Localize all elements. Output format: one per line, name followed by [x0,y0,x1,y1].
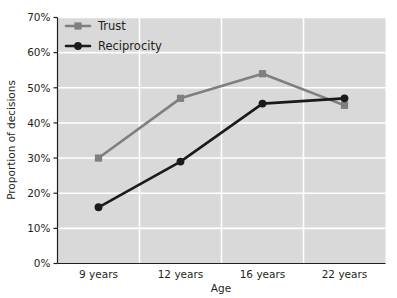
x-tick-label: 22 years [322,268,368,280]
legend-label-reciprocity: Reciprocity [98,39,162,53]
marker-reciprocity [95,203,103,211]
chart-canvas: 0%10%20%30%40%50%60%70% 9 years12 years1… [0,0,397,298]
x-tick-label: 12 years [158,268,204,280]
y-tick-label: 60% [27,46,50,58]
legend-marker-reciprocity [74,42,82,50]
y-tick-label: 30% [27,152,50,164]
x-axis-title: Age [211,282,231,294]
legend-marker-trust [74,22,81,29]
line-chart: 0%10%20%30%40%50%60%70% 9 years12 years1… [0,0,397,298]
marker-trust [177,95,184,102]
x-tick-label: 9 years [79,268,118,280]
marker-reciprocity [259,100,267,108]
y-tick-label: 50% [27,82,50,94]
marker-trust [259,70,266,77]
y-tick-label: 70% [27,11,50,23]
marker-trust [95,154,102,161]
y-tick-label: 40% [27,117,50,129]
y-axis-title: Proportion of decisions [5,80,17,200]
y-tick-label: 10% [27,222,50,234]
legend-label-trust: Trust [97,19,126,33]
marker-reciprocity [177,158,185,166]
y-tick-label: 0% [34,257,51,269]
marker-reciprocity [341,94,349,102]
x-tick-label: 16 years [240,268,286,280]
y-tick-label: 20% [27,187,50,199]
marker-trust [341,102,348,109]
